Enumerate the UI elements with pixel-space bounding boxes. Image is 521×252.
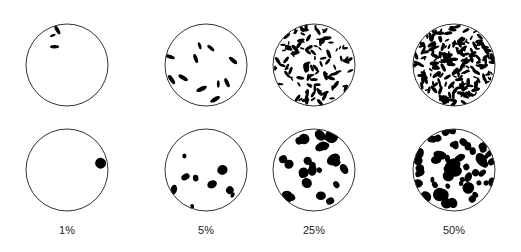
label-50-percent: 50%: [424, 224, 484, 236]
coverage-circle-1-row-2: [26, 129, 108, 211]
label-1-percent: 1%: [37, 224, 97, 236]
coverage-circle-50-row-1: [409, 24, 497, 109]
label-5-percent: 5%: [176, 224, 236, 236]
coverage-circle-25-row-2: [273, 127, 355, 211]
coverage-circle-1-row-1: [26, 24, 108, 106]
coverage-circle-5-row-2: [165, 129, 247, 211]
coverage-circle-5-row-1: [165, 24, 247, 106]
coverage-chart: [0, 0, 521, 252]
coverage-circle-25-row-1: [273, 22, 355, 107]
label-25-percent: 25%: [284, 224, 344, 236]
coverage-circle-50-row-2: [411, 126, 497, 211]
